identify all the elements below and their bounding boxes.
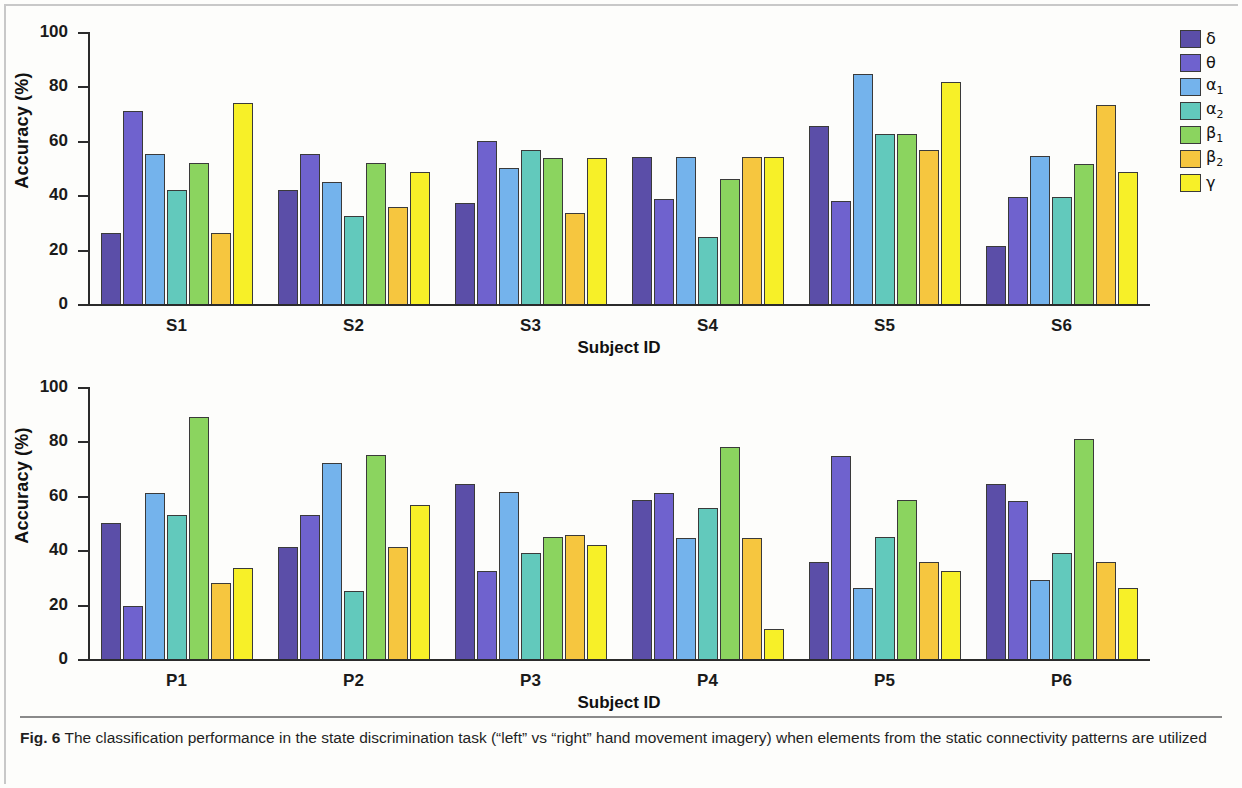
legend-swatch-delta <box>1180 30 1201 48</box>
bar-P2-beta2[interactable] <box>388 547 408 659</box>
bar-S4-theta[interactable] <box>654 199 674 304</box>
bar-P5-beta2[interactable] <box>919 562 939 659</box>
bar-P1-theta[interactable] <box>123 606 143 659</box>
legend-item-gamma[interactable]: γ <box>1180 172 1238 193</box>
bar-S5-theta[interactable] <box>831 201 851 304</box>
legend-item-alpha2[interactable]: α2 <box>1180 100 1238 121</box>
bar-P3-beta2[interactable] <box>565 535 585 659</box>
bar-S6-delta[interactable] <box>986 246 1006 304</box>
bar-S2-gamma[interactable] <box>410 172 430 304</box>
bar-P4-beta2[interactable] <box>742 538 762 659</box>
bar-P1-beta2[interactable] <box>211 583 231 659</box>
bar-P4-beta1[interactable] <box>720 447 740 659</box>
bar-P4-theta[interactable] <box>654 493 674 659</box>
bar-P2-theta[interactable] <box>300 515 320 659</box>
bar-P3-alpha2[interactable] <box>521 553 541 659</box>
bar-P6-alpha1[interactable] <box>1030 580 1050 659</box>
bar-P4-delta[interactable] <box>632 500 652 659</box>
bar-S1-alpha1[interactable] <box>145 154 165 304</box>
x-axis-line-top <box>88 304 1150 306</box>
bar-S3-theta[interactable] <box>477 141 497 304</box>
bar-P6-delta[interactable] <box>986 484 1006 659</box>
bar-S6-alpha1[interactable] <box>1030 156 1050 304</box>
bar-P5-alpha2[interactable] <box>875 537 895 659</box>
bar-P6-theta[interactable] <box>1008 501 1028 659</box>
bar-S2-alpha2[interactable] <box>344 216 364 304</box>
bar-S3-beta1[interactable] <box>543 158 563 304</box>
bar-group-P6: P6 <box>973 387 1150 659</box>
legend-item-alpha1[interactable]: α1 <box>1180 76 1238 97</box>
page-edge-top <box>4 4 1238 6</box>
bar-P2-alpha2[interactable] <box>344 591 364 659</box>
bar-S3-beta2[interactable] <box>565 213 585 304</box>
bar-S1-alpha2[interactable] <box>167 190 187 304</box>
bar-S1-delta[interactable] <box>101 233 121 304</box>
bar-S2-theta[interactable] <box>300 154 320 304</box>
bar-S4-alpha1[interactable] <box>676 157 696 304</box>
bar-P6-alpha2[interactable] <box>1052 553 1072 659</box>
legend-label-gamma: γ <box>1206 173 1215 192</box>
bar-S2-beta2[interactable] <box>388 207 408 304</box>
bar-S3-alpha2[interactable] <box>521 150 541 304</box>
bar-S5-gamma[interactable] <box>941 82 961 304</box>
bar-S5-alpha1[interactable] <box>853 74 873 304</box>
bar-P5-alpha1[interactable] <box>853 588 873 659</box>
bar-P3-alpha1[interactable] <box>499 492 519 659</box>
bar-P4-alpha2[interactable] <box>698 508 718 659</box>
bar-P3-theta[interactable] <box>477 571 497 659</box>
bar-S2-beta1[interactable] <box>366 163 386 304</box>
bar-P1-beta1[interactable] <box>189 417 209 659</box>
bar-P2-delta[interactable] <box>278 547 298 659</box>
legend-swatch-alpha2 <box>1180 102 1201 120</box>
bar-S6-theta[interactable] <box>1008 197 1028 304</box>
bar-P5-gamma[interactable] <box>941 571 961 659</box>
bar-S3-delta[interactable] <box>455 203 475 304</box>
legend-item-delta[interactable]: δ <box>1180 28 1238 49</box>
bar-S3-alpha1[interactable] <box>499 168 519 304</box>
bar-P2-gamma[interactable] <box>410 505 430 659</box>
bar-S5-beta2[interactable] <box>919 150 939 304</box>
bar-S1-beta1[interactable] <box>189 163 209 304</box>
legend-item-beta1[interactable]: β1 <box>1180 124 1238 145</box>
bar-P2-beta1[interactable] <box>366 455 386 659</box>
bar-P6-beta1[interactable] <box>1074 439 1094 659</box>
bar-S4-beta1[interactable] <box>720 179 740 304</box>
bar-P6-gamma[interactable] <box>1118 588 1138 659</box>
bar-S2-alpha1[interactable] <box>322 182 342 304</box>
bar-S4-alpha2[interactable] <box>698 237 718 304</box>
bar-S6-gamma[interactable] <box>1118 172 1138 304</box>
y-tick-label-top-100: 100 <box>8 22 68 42</box>
bar-P1-alpha1[interactable] <box>145 493 165 659</box>
bar-P5-beta1[interactable] <box>897 500 917 659</box>
y-tick-label-top-40: 40 <box>8 185 68 205</box>
bar-P2-alpha1[interactable] <box>322 463 342 659</box>
bar-P3-delta[interactable] <box>455 484 475 659</box>
bar-P4-gamma[interactable] <box>764 629 784 659</box>
bar-S5-delta[interactable] <box>809 126 829 304</box>
bar-P1-gamma[interactable] <box>233 568 253 659</box>
bar-S4-delta[interactable] <box>632 157 652 304</box>
bar-P3-beta1[interactable] <box>543 537 563 659</box>
bar-S6-alpha2[interactable] <box>1052 197 1072 304</box>
bar-S1-gamma[interactable] <box>233 103 253 304</box>
bar-S5-beta1[interactable] <box>897 134 917 304</box>
bar-S6-beta2[interactable] <box>1096 105 1116 304</box>
bar-P6-beta2[interactable] <box>1096 562 1116 659</box>
bar-S3-gamma[interactable] <box>587 158 607 304</box>
bar-S4-gamma[interactable] <box>764 157 784 304</box>
legend-item-beta2[interactable]: β2 <box>1180 148 1238 169</box>
bar-P1-alpha2[interactable] <box>167 515 187 659</box>
bar-S1-theta[interactable] <box>123 111 143 304</box>
bar-S6-beta1[interactable] <box>1074 164 1094 304</box>
bar-P3-gamma[interactable] <box>587 545 607 659</box>
bar-S4-beta2[interactable] <box>742 157 762 304</box>
bar-P5-delta[interactable] <box>809 562 829 659</box>
bar-S5-alpha2[interactable] <box>875 134 895 304</box>
legend-item-theta[interactable]: θ <box>1180 52 1238 73</box>
bar-P4-alpha1[interactable] <box>676 538 696 659</box>
bar-P5-theta[interactable] <box>831 456 851 659</box>
bar-S2-delta[interactable] <box>278 190 298 304</box>
bar-P1-delta[interactable] <box>101 523 121 659</box>
bar-S1-beta2[interactable] <box>211 233 231 304</box>
x-tick-label-P2: P2 <box>265 671 442 691</box>
